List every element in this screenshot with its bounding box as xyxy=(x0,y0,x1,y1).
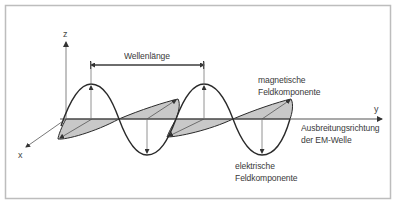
y-axis-label: y xyxy=(374,104,379,114)
z-axis-label: z xyxy=(63,29,68,39)
propagation-label-line2: der EM-Welle xyxy=(301,135,352,145)
magnetic-label-line2: Feldkomponente xyxy=(258,87,320,97)
electric-label-line2: Feldkomponente xyxy=(235,173,297,183)
propagation-label-line1: Ausbreitungsrichtung xyxy=(301,123,380,133)
x-axis-label: x xyxy=(18,150,23,160)
em-wave-diagram xyxy=(0,0,399,203)
electric-label-line1: elektrische xyxy=(235,161,275,171)
magnetic-label-line1: magnetische xyxy=(258,75,305,85)
wavelength-label: Wellenlänge xyxy=(124,51,170,61)
